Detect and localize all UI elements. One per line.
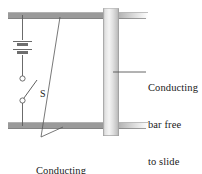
conducting-bar-label-line1: Conducting: [148, 82, 198, 94]
top-conducting-rail: [8, 12, 148, 19]
conducting-bar-label-line3: to slide: [148, 156, 198, 168]
conducting-rails-label: Conducting rails: [36, 140, 86, 174]
conducting-bar-label: Conducting bar free to slide: [148, 57, 198, 174]
bottom-conducting-rail: [8, 122, 148, 129]
rails-leader-lines: [41, 17, 63, 137]
conducting-rails-label-line1: Conducting: [36, 165, 86, 174]
switch-label: S: [40, 88, 46, 100]
circuit-wiring: [13, 15, 32, 76]
physics-circuit-diagram: Conducting bar free to slide Conducting …: [0, 0, 202, 174]
switch-component[interactable]: [20, 76, 37, 126]
conducting-bar-label-line2: bar free: [148, 119, 198, 131]
